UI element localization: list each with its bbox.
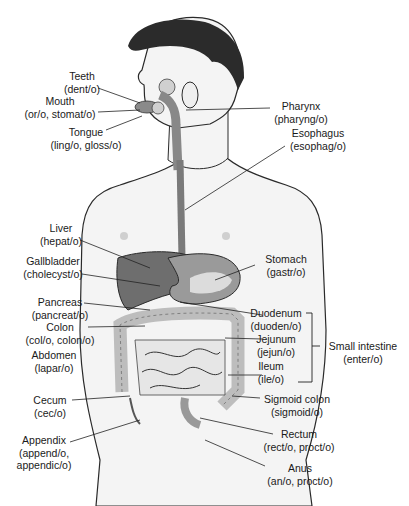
nipple-right bbox=[222, 232, 230, 240]
label-term: Pancreas bbox=[30, 296, 90, 309]
label-rectum: Rectum (rect/o, proct/o) bbox=[262, 428, 336, 453]
label-root: (hepat/o) bbox=[36, 235, 86, 248]
label-root: (pancreat/o) bbox=[30, 309, 90, 322]
label-term: Ileum bbox=[252, 360, 290, 373]
label-term: Small intestine bbox=[318, 340, 408, 353]
label-term: Esophagus bbox=[282, 127, 354, 140]
label-appendix: Appendix (append/o, appendic/o) bbox=[14, 434, 74, 472]
label-jejunum: Jejunum (jejun/o) bbox=[252, 333, 300, 358]
label-abdomen: Abdomen (lapar/o) bbox=[26, 349, 82, 374]
label-anus: Anus (an/o, proct/o) bbox=[264, 462, 336, 487]
label-mouth: Mouth (or/o, stomat/o) bbox=[20, 95, 100, 120]
label-cecum: Cecum (cec/o) bbox=[28, 394, 72, 419]
label-term: Gallbladder bbox=[22, 255, 84, 268]
label-root: (esophag/o) bbox=[282, 140, 354, 153]
label-root: (gastr/o) bbox=[256, 266, 316, 279]
label-term: Cecum bbox=[28, 394, 72, 407]
label-root-2: appendic/o) bbox=[14, 459, 74, 472]
label-root: (sigmoid/o) bbox=[260, 406, 334, 419]
label-teeth: Teeth (dent/o) bbox=[58, 70, 106, 95]
ear bbox=[182, 82, 198, 108]
label-root: (pharyng/o) bbox=[268, 113, 334, 126]
label-pancreas: Pancreas (pancreat/o) bbox=[30, 296, 90, 321]
esophagus bbox=[180, 160, 182, 258]
label-term: Tongue bbox=[46, 126, 126, 139]
label-esophagus: Esophagus (esophag/o) bbox=[282, 127, 354, 152]
label-root: (cec/o) bbox=[28, 407, 72, 420]
label-term: Anus bbox=[264, 462, 336, 475]
label-sigmoid-colon: Sigmoid colon (sigmoid/o) bbox=[260, 393, 334, 418]
label-term: Teeth bbox=[58, 70, 106, 83]
label-term: Liver bbox=[36, 222, 86, 235]
label-term: Abdomen bbox=[26, 349, 82, 362]
label-root: (duoden/o) bbox=[246, 320, 306, 333]
label-tongue: Tongue (ling/o, gloss/o) bbox=[46, 126, 126, 151]
label-root: (ling/o, gloss/o) bbox=[46, 139, 126, 152]
label-pharynx: Pharynx (pharyng/o) bbox=[268, 100, 334, 125]
label-term: Appendix bbox=[14, 434, 74, 447]
label-term: Stomach bbox=[256, 253, 316, 266]
label-term: Colon bbox=[24, 321, 96, 334]
nipple-left bbox=[120, 232, 128, 240]
label-duodenum: Duodenum (duoden/o) bbox=[246, 307, 306, 332]
label-stomach: Stomach (gastr/o) bbox=[256, 253, 316, 278]
label-term: Duodenum bbox=[246, 307, 306, 320]
label-colon: Colon (col/o, colon/o) bbox=[24, 321, 96, 346]
label-liver: Liver (hepat/o) bbox=[36, 222, 86, 247]
salivary-gland-2 bbox=[152, 102, 164, 114]
label-small-intestine: Small intestine (enter/o) bbox=[318, 340, 408, 365]
label-term: Pharynx bbox=[268, 100, 334, 113]
label-root: (rect/o, proct/o) bbox=[262, 441, 336, 454]
label-ileum: Ileum (ile/o) bbox=[252, 360, 290, 385]
label-term: Mouth bbox=[20, 95, 100, 108]
label-gallbladder: Gallbladder (cholecyst/o) bbox=[22, 255, 84, 280]
label-root: (cholecyst/o) bbox=[22, 268, 84, 281]
label-root: (jejun/o) bbox=[252, 346, 300, 359]
label-root: (ile/o) bbox=[252, 373, 290, 386]
label-root: (enter/o) bbox=[318, 353, 408, 366]
label-term: Rectum bbox=[262, 428, 336, 441]
label-root: (dent/o) bbox=[58, 83, 106, 96]
label-term: Sigmoid colon bbox=[260, 393, 334, 406]
label-root: (lapar/o) bbox=[26, 362, 82, 375]
small-intestine bbox=[135, 340, 225, 395]
label-root: (or/o, stomat/o) bbox=[20, 108, 100, 121]
label-root: (append/o, bbox=[14, 447, 74, 460]
label-term: Jejunum bbox=[252, 333, 300, 346]
label-root: (col/o, colon/o) bbox=[24, 334, 96, 347]
label-root: (an/o, proct/o) bbox=[264, 475, 336, 488]
